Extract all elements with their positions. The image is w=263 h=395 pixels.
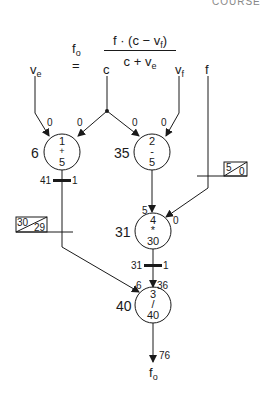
edge-vf-n2: [166, 76, 179, 136]
output-fo: fo: [149, 366, 158, 382]
box-f-bottom: 0: [239, 167, 245, 177]
dataflow-diagram: COURSE fo = f · (c − vf) c + ve: [0, 0, 263, 395]
register-n4-left: 31: [131, 261, 142, 271]
box-n1-top: 30: [17, 218, 28, 228]
edge-label-output: 76: [159, 351, 170, 361]
edge-label-vf-n2: 0: [161, 118, 167, 128]
node-4-delay: 30: [143, 236, 163, 247]
edge-f-n4: [166, 76, 208, 217]
node-4-schedule: 31: [115, 225, 131, 239]
node-3-delay: 40: [143, 310, 163, 321]
edge-label-c-n1: 0: [77, 118, 83, 128]
node-3-schedule: 40: [116, 299, 132, 313]
edge-label-ve-n1: 0: [47, 118, 53, 128]
diagram-edges: [0, 0, 263, 395]
register-bar-n4: [144, 264, 162, 267]
register-n1-left: 41: [40, 176, 51, 186]
input-ve: ve: [30, 63, 42, 79]
input-c: c: [103, 63, 110, 76]
node-1-op: +: [52, 147, 72, 156]
input-vf: vf: [175, 63, 184, 79]
edge-label-f-n4: 0: [173, 216, 179, 226]
junction-dot: [105, 109, 109, 113]
edge-label-n1-n3: 6: [136, 281, 142, 291]
register-bar-n1: [53, 179, 71, 182]
register-n4-right: 1: [163, 261, 169, 271]
box-f-top: 5: [226, 163, 232, 173]
box-n1-bottom: 29: [34, 223, 45, 233]
node-2-schedule: 35: [114, 146, 130, 160]
node-1-schedule: 6: [31, 146, 39, 160]
register-n1-right: 1: [72, 176, 78, 186]
edge-label-c-n2: 0: [132, 118, 138, 128]
node-1-delay: 5: [52, 157, 72, 168]
node-2-delay: 5: [142, 157, 162, 168]
input-f: f: [205, 63, 209, 76]
